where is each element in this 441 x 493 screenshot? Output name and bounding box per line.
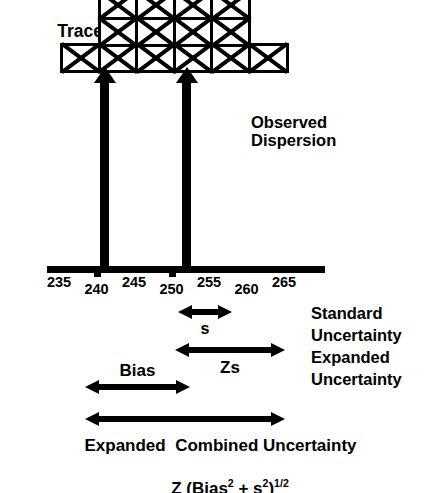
arrow-head-icon [94, 67, 116, 83]
bias-span-arrow-icon [85, 382, 190, 389]
zs-label: Zs [192, 358, 268, 378]
x-tick-label: 250 [152, 281, 192, 297]
histogram-bar [135, 0, 176, 73]
legend-line-uncertainty-1: Uncertainty [311, 325, 441, 347]
histogram-cell [98, 0, 139, 20]
x-tick-label: 245 [114, 274, 154, 290]
legend-line-uncertainty-2: Uncertainty [311, 369, 441, 391]
bias-label: Bias [85, 361, 190, 381]
arrow-shaft [95, 416, 275, 423]
histogram-bar [210, 0, 251, 73]
histogram-cell [210, 0, 251, 20]
arrow-head-icon [176, 67, 198, 83]
histogram-cell [210, 43, 251, 73]
observed-mean-arrow-icon [182, 82, 191, 270]
x-tick-mark [94, 270, 101, 277]
histogram-cell [135, 43, 176, 73]
histogram-bar [248, 47, 289, 74]
histogram-plot: 235240245250255260265 [0, 0, 441, 300]
histogram-cell [135, 0, 176, 20]
formula-prefix: Z (Bias [171, 479, 228, 493]
arrow-tip-right-icon [218, 305, 232, 319]
arrow-shaft [95, 384, 180, 391]
histogram-bar [98, 0, 139, 73]
histogram-cell [173, 0, 214, 20]
arrow-shaft [185, 347, 275, 354]
x-tick-label: 265 [264, 274, 304, 290]
x-tick-label: 235 [39, 274, 79, 290]
x-tick-label: 255 [189, 274, 229, 290]
uncertainty-histogram-figure: Traceable Value Observed Mean Observed D… [0, 0, 441, 493]
histogram-cell [98, 17, 139, 47]
combined-uncertainty-formula: Z (Bias2 + s2)1/2 [0, 459, 441, 493]
s-label: s [178, 320, 232, 338]
formula-sup-root: 1/2 [274, 477, 289, 489]
formula-mid: + s [234, 479, 263, 493]
arrow-shaft [188, 309, 222, 316]
histogram-bar [173, 0, 214, 73]
histogram-cell [173, 17, 214, 47]
expanded-uncertainty-span-arrow-icon [175, 345, 285, 352]
arrow-tip-right-icon [176, 380, 190, 394]
legend-line-expanded: Expanded [311, 347, 441, 369]
standard-uncertainty-span-arrow-icon [178, 307, 232, 314]
x-tick-label: 260 [227, 281, 267, 297]
arrow-tip-right-icon [271, 412, 285, 426]
traceable-value-arrow-icon [100, 82, 109, 270]
histogram-cell [248, 43, 289, 73]
histogram-cell [135, 17, 176, 47]
combined-uncertainty-span-arrow-icon [85, 414, 285, 421]
x-tick-mark [169, 270, 176, 277]
combined-uncertainty-title: Expanded Combined Uncertainty [0, 436, 441, 455]
arrow-tip-right-icon [271, 343, 285, 357]
x-tick-label: 240 [77, 281, 117, 297]
uncertainty-legend: Standard Uncertainty Expanded Uncertaint… [311, 303, 441, 391]
legend-line-standard: Standard [311, 303, 441, 325]
histogram-cell [210, 17, 251, 47]
